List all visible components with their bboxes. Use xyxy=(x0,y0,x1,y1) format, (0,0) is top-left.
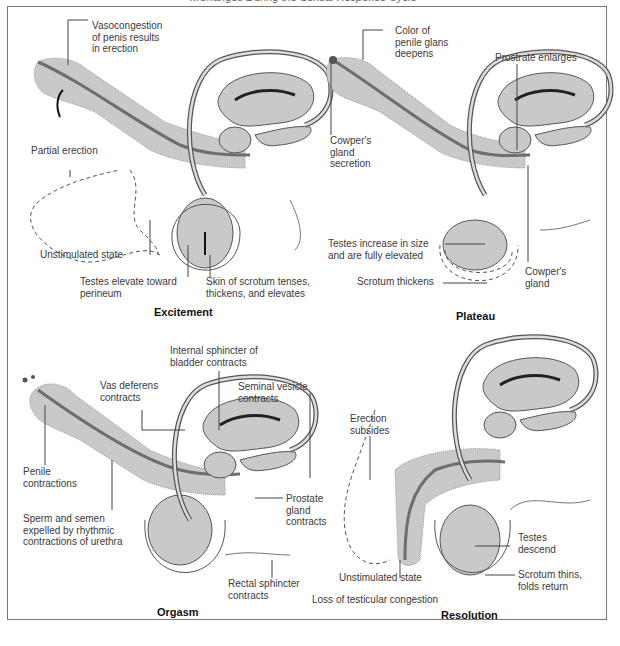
label-scrotum-tenses: Skin of scrotum tenses, thickens, and el… xyxy=(206,276,310,299)
label-testes-descend: Testes descend xyxy=(518,532,556,555)
label-testes-elevate: Testes elevate toward perineum xyxy=(80,276,177,299)
label-cowpers-secretion: Cowper's gland secretion xyxy=(330,135,371,170)
label-internal-sphincter: Internal sphincter of bladder contracts xyxy=(170,345,258,368)
panel-title-orgasm: Orgasm xyxy=(157,606,199,618)
label-penile-contractions: Penile contractions xyxy=(23,466,77,489)
label-erection-subsides: Erection subsides xyxy=(350,413,389,436)
label-vas-deferens: Vas deferens contracts xyxy=(100,380,158,403)
label-prostate-enlarges: Prostrate enlarges xyxy=(495,52,577,64)
label-prostate-contracts: Prostate gland contracts xyxy=(286,493,327,528)
panel-title-resolution: Resolution xyxy=(441,609,498,621)
label-loss-congestion: Loss of testicular congestion xyxy=(312,594,438,606)
label-glans-color: Color of penile glans deepens xyxy=(395,25,448,60)
label-unstimulated-state-resolution: Unstimulated state xyxy=(339,572,422,584)
label-scrotum-thickens: Scrotum thickens xyxy=(357,276,434,288)
label-seminal-vesicle: Seminal vesicle contracts xyxy=(238,381,307,404)
label-rectal-sphincter: Rectal sphincter contracts xyxy=(228,578,300,601)
label-cowpers-gland: Cowper's gland xyxy=(525,266,566,289)
panel-title-excitement: Excitement xyxy=(154,306,213,318)
label-vasocongestion: Vasocongestion of penis results in erect… xyxy=(92,20,162,55)
panel-title-plateau: Plateau xyxy=(456,310,495,322)
label-testes-increase: Testes increase in size and are fully el… xyxy=(328,238,429,261)
label-partial-erection: Partial erection xyxy=(31,145,98,157)
resolution-illustration xyxy=(344,337,596,578)
label-unstimulated-state: Unstimulated state xyxy=(40,249,123,261)
label-sperm-semen: Sperm and semen expelled by rhythmic con… xyxy=(23,513,123,548)
label-scrotum-thins: Scrotum thins, folds return xyxy=(518,569,582,592)
